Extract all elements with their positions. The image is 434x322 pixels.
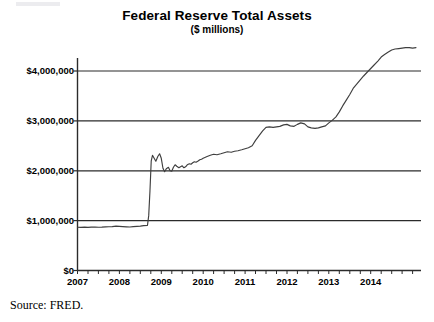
x-axis-tick-label: 2011: [223, 276, 267, 287]
chart-figure: Federal Reserve Total Assets ($ millions…: [0, 0, 434, 322]
x-axis-tick-label: 2008: [97, 276, 141, 287]
x-axis-labels: 20072008200920102011201220132014: [0, 0, 434, 300]
x-axis-tick-label: 2010: [181, 276, 225, 287]
x-axis-tick-label: 2013: [307, 276, 351, 287]
x-axis-tick-label: 2012: [265, 276, 309, 287]
x-axis-tick-label: 2009: [139, 276, 183, 287]
x-axis-tick-label: 2014: [349, 276, 393, 287]
plot-area: $0$1,000,000$2,000,000$3,000,000$4,000,0…: [0, 0, 434, 300]
source-note: Source: FRED.: [10, 298, 83, 312]
x-axis-tick-label: 2007: [56, 276, 100, 287]
